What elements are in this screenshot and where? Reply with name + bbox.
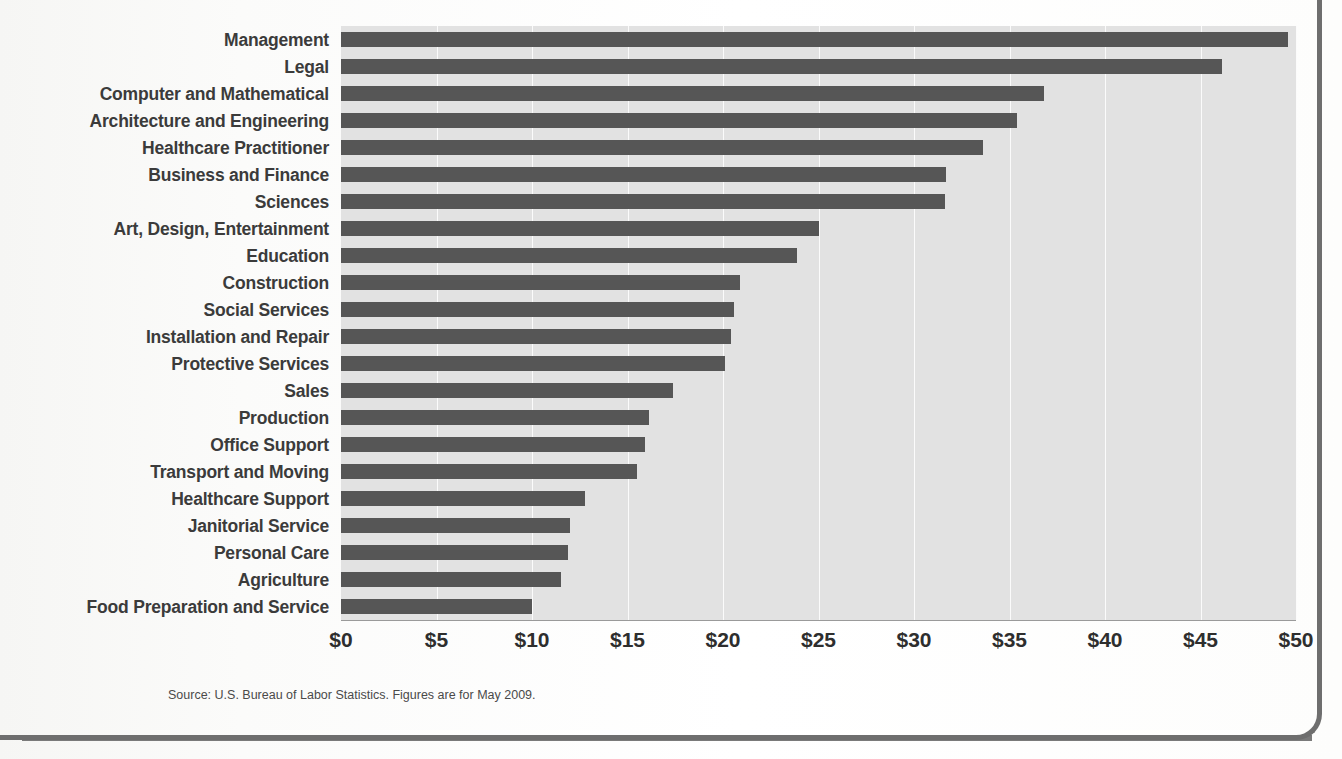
bar bbox=[341, 194, 945, 209]
bar bbox=[341, 329, 731, 344]
x-tick-label: $30 bbox=[896, 628, 931, 652]
bar bbox=[341, 248, 797, 263]
bar bbox=[341, 491, 585, 506]
category-label: Education bbox=[246, 247, 329, 265]
category-label: Office Support bbox=[210, 436, 329, 454]
plot-area bbox=[341, 26, 1296, 620]
x-tick-label: $35 bbox=[992, 628, 1027, 652]
bar bbox=[341, 302, 734, 317]
bar bbox=[341, 572, 561, 587]
x-axis-line bbox=[341, 620, 1296, 621]
bar bbox=[341, 275, 740, 290]
bar bbox=[341, 356, 725, 371]
category-label: Agriculture bbox=[238, 571, 329, 589]
page-bottom-rule bbox=[22, 735, 1312, 741]
category-label: Art, Design, Entertainment bbox=[113, 220, 329, 238]
bar bbox=[341, 140, 983, 155]
bar bbox=[341, 221, 819, 236]
bar bbox=[341, 464, 637, 479]
category-label: Social Services bbox=[204, 301, 329, 319]
category-label: Production bbox=[239, 409, 329, 427]
bar bbox=[341, 545, 568, 560]
bar bbox=[341, 32, 1288, 47]
scanned-page: ManagementLegalComputer and Mathematical… bbox=[0, 0, 1342, 759]
bar bbox=[341, 437, 645, 452]
bar bbox=[341, 410, 649, 425]
category-label: Business and Finance bbox=[148, 166, 329, 184]
source-note: Source: U.S. Bureau of Labor Statistics.… bbox=[168, 688, 536, 702]
bar-chart: ManagementLegalComputer and Mathematical… bbox=[0, 0, 1342, 759]
category-label: Transport and Moving bbox=[150, 463, 329, 481]
category-label: Management bbox=[224, 31, 329, 49]
gridline bbox=[1201, 26, 1202, 620]
x-tick-label: $20 bbox=[705, 628, 740, 652]
bar bbox=[341, 113, 1017, 128]
category-label: Food Preparation and Service bbox=[87, 598, 329, 616]
x-tick-label: $25 bbox=[801, 628, 836, 652]
bar bbox=[341, 599, 532, 614]
x-tick-label: $5 bbox=[425, 628, 448, 652]
category-label: Legal bbox=[284, 58, 329, 76]
bar bbox=[341, 383, 673, 398]
category-label: Healthcare Support bbox=[171, 490, 329, 508]
bar bbox=[341, 518, 570, 533]
x-tick-label: $50 bbox=[1278, 628, 1313, 652]
gridline bbox=[1105, 26, 1106, 620]
category-label: Sales bbox=[284, 382, 329, 400]
bar bbox=[341, 59, 1222, 74]
category-label: Construction bbox=[223, 274, 329, 292]
category-label: Architecture and Engineering bbox=[90, 112, 329, 130]
category-label: Computer and Mathematical bbox=[100, 85, 329, 103]
bar bbox=[341, 86, 1044, 101]
category-label: Janitorial Service bbox=[188, 517, 329, 535]
category-label: Protective Services bbox=[171, 355, 329, 373]
x-tick-label: $40 bbox=[1087, 628, 1122, 652]
category-label: Healthcare Practitioner bbox=[142, 139, 329, 157]
x-tick-label: $0 bbox=[329, 628, 352, 652]
gridline bbox=[1296, 26, 1297, 620]
category-label: Installation and Repair bbox=[146, 328, 329, 346]
category-label: Sciences bbox=[255, 193, 329, 211]
bar bbox=[341, 167, 946, 182]
x-tick-label: $10 bbox=[514, 628, 549, 652]
x-tick-label: $45 bbox=[1183, 628, 1218, 652]
category-label: Personal Care bbox=[214, 544, 329, 562]
x-tick-label: $15 bbox=[610, 628, 645, 652]
category-labels: ManagementLegalComputer and Mathematical… bbox=[0, 26, 335, 620]
